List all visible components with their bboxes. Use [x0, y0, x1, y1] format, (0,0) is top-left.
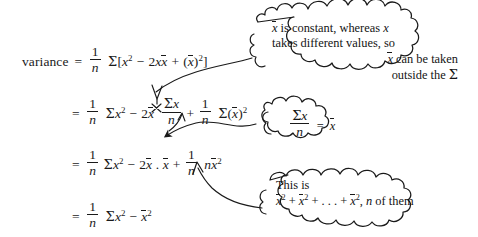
- equation-line-2: =1nΣx2−2xΣxn+1nΣ(x)2: [72, 97, 247, 127]
- sigma-symbol-1: Σ: [108, 54, 117, 69]
- bubble-bot-line-1: This is: [276, 178, 466, 193]
- fraction-one-over-n-3b: 1n: [186, 148, 197, 178]
- fraction-one-over-n-4: 1n: [87, 200, 98, 230]
- equals-sign-1: =: [75, 54, 83, 69]
- equation-line-4: =1nΣx2−x2: [72, 200, 152, 230]
- fraction-one-over-n-1: 1n: [90, 45, 101, 75]
- fraction-one-over-n-2b: 1n: [200, 97, 211, 127]
- equals-sign-2: =: [72, 106, 80, 121]
- bubble-bot-line-2: x2 + x2 + . . . + x2, n of them: [276, 193, 466, 209]
- fraction-sigma-x-over-n: Σxn: [162, 97, 181, 127]
- annotation-bubble-constant: x is constant, whereas x takes different…: [248, 2, 478, 106]
- fraction-one-over-n-3: 1n: [87, 148, 98, 178]
- bubble-top-line-2: takes different values, so: [272, 36, 458, 51]
- annotation-bubble-n-copies: This is x2 + x2 + . . . + x2, n of them: [252, 166, 478, 234]
- fraction-sigma-x-over-n-bubble: Σxn: [290, 109, 309, 139]
- bubble-top-line-1: x is constant, whereas x: [272, 20, 458, 36]
- annotation-bubble-n-copies-text: This is x2 + x2 + . . . + x2, n of them: [276, 178, 466, 209]
- equals-sign-3: =: [72, 157, 80, 172]
- variance-derivation-figure: variance=1nΣ[x2−2xx+(x)2] =1nΣx2−2xΣxn+1…: [0, 0, 478, 237]
- bubble-top-line-4: outside the Σ: [272, 67, 458, 83]
- equals-sign-bubble: =: [317, 119, 324, 133]
- equals-sign-4: =: [72, 209, 80, 224]
- annotation-bubble-mean-identity-text: Σxn=x: [269, 109, 355, 139]
- annotation-bubble-mean-identity: Σxn=x: [253, 96, 373, 158]
- fraction-one-over-n-2: 1n: [87, 97, 98, 127]
- annotation-bubble-constant-text: x is constant, whereas x takes different…: [272, 20, 458, 84]
- equation-line-3: =1nΣx2−2x . x+1nnx2: [72, 148, 222, 178]
- equation-line-1: variance=1nΣ[x2−2xx+(x)2]: [22, 45, 208, 75]
- variance-label: variance: [22, 54, 69, 69]
- bubble-top-line-3: x can be taken: [272, 51, 458, 67]
